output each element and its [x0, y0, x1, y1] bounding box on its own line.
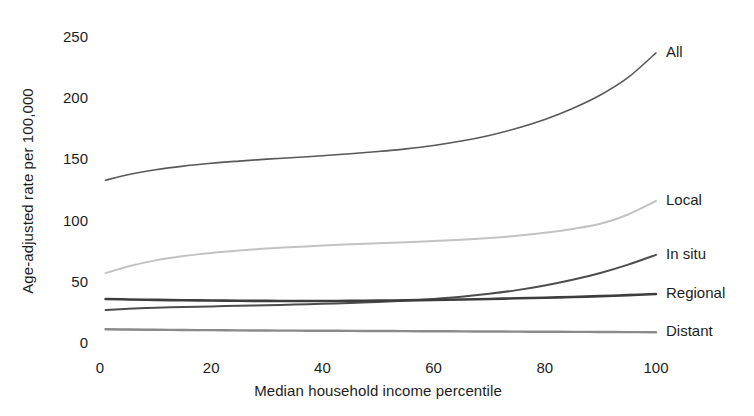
series-line-regional	[106, 294, 656, 301]
chart-figure: Age-adjusted rate per 100,000 0501001502…	[0, 0, 754, 416]
series-label-distant: Distant	[666, 322, 713, 339]
series-label-in-situ: In situ	[666, 245, 706, 262]
series-lines	[106, 53, 656, 332]
plot-area	[0, 0, 754, 416]
series-line-local	[106, 201, 656, 273]
series-line-distant	[106, 329, 656, 332]
series-label-all: All	[666, 43, 683, 60]
series-line-all	[106, 53, 656, 180]
x-axis-title: Median household income percentile	[100, 382, 656, 399]
series-label-local: Local	[666, 191, 702, 208]
series-label-regional: Regional	[666, 284, 725, 301]
